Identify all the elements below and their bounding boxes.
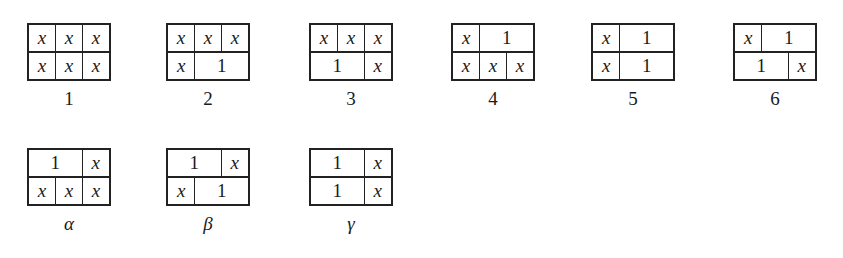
top-row: x1 — [593, 25, 673, 51]
cell-x: x — [29, 178, 55, 204]
cell-x: x — [55, 25, 82, 51]
top-row: xxx — [29, 25, 109, 51]
figure-label: 4 — [451, 88, 535, 110]
cell-one: 1 — [619, 53, 673, 79]
cell-one: 1 — [311, 53, 364, 79]
cell-x: x — [479, 53, 506, 79]
figure-5: x1x15 — [591, 23, 677, 110]
bottom-row: 1x — [735, 51, 815, 79]
figure-2: xxxx12 — [166, 23, 252, 110]
grid-box: 1xxxx — [27, 148, 111, 206]
figure-label: α — [27, 213, 111, 235]
top-row: xxx — [168, 25, 248, 51]
cell-x: x — [453, 53, 479, 79]
bottom-row: x1 — [168, 51, 248, 79]
figure-label: 3 — [309, 88, 393, 110]
grid-box: x1x1 — [591, 23, 675, 81]
cell-x: x — [82, 150, 109, 176]
cell-x: x — [29, 53, 55, 79]
top-row: 1x — [311, 150, 391, 176]
cell-x: x — [194, 25, 221, 51]
top-row: 1x — [168, 150, 248, 176]
top-row: x1 — [453, 25, 533, 51]
grid-box: 1xx1 — [166, 148, 250, 206]
cell-one: 1 — [761, 25, 815, 51]
figure-label: β — [166, 213, 250, 235]
cell-x: x — [55, 178, 82, 204]
figure-label: 5 — [591, 88, 675, 110]
cell-x: x — [593, 25, 619, 51]
cell-one: 1 — [194, 53, 248, 79]
cell-one: 1 — [311, 178, 364, 204]
cell-x: x — [788, 53, 815, 79]
cell-x: x — [168, 53, 194, 79]
cell-x: x — [311, 25, 337, 51]
cell-one: 1 — [168, 150, 221, 176]
cell-x: x — [735, 25, 761, 51]
cell-x: x — [337, 25, 364, 51]
figure-6: x11x6 — [733, 23, 819, 110]
bottom-row: xxx — [29, 51, 109, 79]
cell-one: 1 — [619, 25, 673, 51]
top-row: xxx — [311, 25, 391, 51]
cell-x: x — [593, 53, 619, 79]
cell-x: x — [82, 178, 109, 204]
figure-4: x1xxx4 — [451, 23, 537, 110]
cell-one: 1 — [29, 150, 82, 176]
figure-beta: 1xx1β — [166, 148, 252, 235]
top-row: 1x — [29, 150, 109, 176]
top-row: x1 — [735, 25, 815, 51]
figure-gamma: 1x1xγ — [309, 148, 395, 235]
cell-x: x — [55, 53, 82, 79]
bottom-row: 1x — [311, 176, 391, 204]
cell-x: x — [82, 25, 109, 51]
figure-label: 1 — [27, 88, 111, 110]
figure-1: xxxxxx1 — [27, 23, 113, 110]
bottom-row: x1 — [593, 51, 673, 79]
grid-box: xxx1x — [309, 23, 393, 81]
cell-x: x — [364, 178, 391, 204]
cell-one: 1 — [311, 150, 364, 176]
grid-box: xxxxxx — [27, 23, 111, 81]
cell-x: x — [29, 25, 55, 51]
figure-label: 2 — [166, 88, 250, 110]
cell-x: x — [364, 53, 391, 79]
figure-alpha: 1xxxxα — [27, 148, 113, 235]
cell-one: 1 — [194, 178, 248, 204]
cell-x: x — [168, 178, 194, 204]
figure-label: 6 — [733, 88, 817, 110]
figure-label: γ — [309, 213, 393, 235]
cell-x: x — [168, 25, 194, 51]
figure-3: xxx1x3 — [309, 23, 395, 110]
bottom-row: x1 — [168, 176, 248, 204]
bottom-row: xxx — [453, 51, 533, 79]
grid-box: xxxx1 — [166, 23, 250, 81]
grid-box: 1x1x — [309, 148, 393, 206]
cell-one: 1 — [479, 25, 533, 51]
cell-x: x — [221, 150, 248, 176]
cell-x: x — [506, 53, 533, 79]
cell-x: x — [453, 25, 479, 51]
grid-box: x1xxx — [451, 23, 535, 81]
grid-box: x11x — [733, 23, 817, 81]
cell-x: x — [364, 150, 391, 176]
cell-x: x — [82, 53, 109, 79]
cell-one: 1 — [735, 53, 788, 79]
bottom-row: xxx — [29, 176, 109, 204]
bottom-row: 1x — [311, 51, 391, 79]
cell-x: x — [364, 25, 391, 51]
cell-x: x — [221, 25, 248, 51]
